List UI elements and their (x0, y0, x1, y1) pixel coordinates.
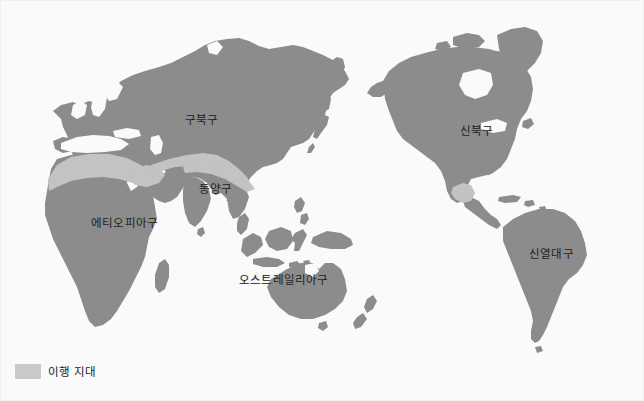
legend-label-transition-zone: 이행 지대 (48, 363, 96, 379)
figure-container: 구북구 신북구 동양구 에티오피아구 오스트레일리아구 신열대구 이행 지대 (0, 0, 644, 401)
world-map (1, 1, 644, 401)
legend: 이행 지대 (15, 363, 96, 379)
legend-swatch-transition-zone (15, 364, 41, 379)
